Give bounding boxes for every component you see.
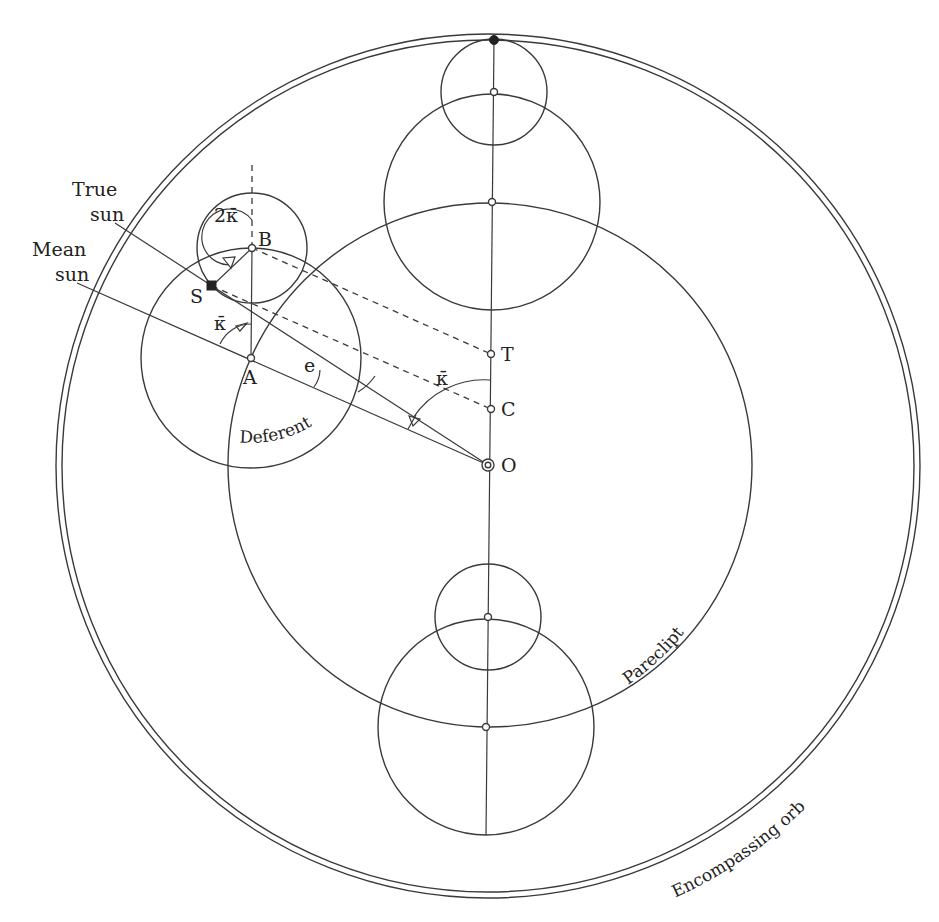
label-kappa-center: κ̄: [436, 367, 448, 389]
apogee-point: [490, 36, 499, 45]
point-s: [207, 281, 216, 290]
label-point-a: A: [242, 366, 257, 388]
top-large-center: [489, 199, 496, 206]
dashed-b-t: [252, 248, 491, 354]
label-kappa-epicycle: κ̄: [214, 312, 226, 334]
point-b: [249, 245, 256, 252]
label-point-o: O: [501, 454, 517, 476]
label-point-s: S: [190, 285, 203, 307]
apsidal-axis: [486, 40, 494, 835]
label-2kappa: 2κ̄: [214, 204, 238, 226]
point-o-inner: [485, 462, 491, 468]
diagram-canvas: True sun Mean sun 2κ̄ B S κ̄ A e κ̄ T C …: [0, 0, 939, 922]
point-t: [488, 351, 495, 358]
angle-kappa-center-arc: [413, 380, 490, 418]
label-deferent: Deferent: [239, 412, 314, 447]
line-a-b: [251, 248, 252, 358]
dashed-s-c: [212, 286, 491, 409]
top-small-center: [491, 89, 498, 96]
label-angle-e: e: [304, 354, 315, 376]
point-c: [488, 406, 495, 413]
label-point-b: B: [258, 228, 272, 250]
bottom-small-center: [485, 614, 492, 621]
bottom-large-center: [483, 724, 490, 731]
solar-model-diagram: True sun Mean sun 2κ̄ B S κ̄ A e κ̄ T C …: [0, 0, 939, 922]
label-mean-sun-1: Mean: [32, 238, 86, 260]
label-point-c: C: [501, 398, 516, 420]
label-true-sun-1: True: [72, 178, 117, 200]
label-pareclipt: Pareclipt: [619, 622, 688, 688]
label-point-t: T: [501, 343, 514, 365]
label-mean-sun-2: sun: [55, 263, 89, 285]
label-true-sun-2: sun: [90, 203, 124, 225]
point-a: [248, 355, 255, 362]
